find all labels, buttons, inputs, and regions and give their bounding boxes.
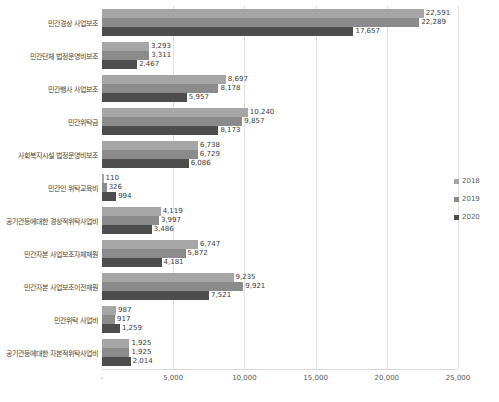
bar-value-label: 326 <box>109 183 122 192</box>
x-tick-label: 25,000 <box>446 374 471 382</box>
gridline <box>387 6 388 369</box>
category-axis: 민간경상 사업보조민간단체 법정운영비보조민간행사 사업보조민간위탁금사회복지시… <box>0 6 98 369</box>
legend-label-2020: 2020 <box>462 213 480 221</box>
legend-label-2018: 2018 <box>462 177 480 185</box>
legend-swatch-2018-icon <box>454 179 459 184</box>
plot-area: 22,59122,28917,6573,2933,3112,4678,6978,… <box>102 6 458 370</box>
bar-2019 <box>102 150 198 159</box>
bar-2018 <box>102 240 198 249</box>
bar-2018 <box>102 42 149 51</box>
gridline <box>244 6 245 369</box>
bar-2019 <box>102 282 243 291</box>
bar-2018 <box>102 306 116 315</box>
x-tick-label: 20,000 <box>375 374 400 382</box>
bar-value-label: 9,921 <box>245 282 265 291</box>
bar-value-label: 8,173 <box>220 126 240 135</box>
bar-value-label: 22,289 <box>421 18 446 27</box>
bar-2020 <box>102 93 187 102</box>
bar-value-label: 3,997 <box>161 216 181 225</box>
bar-value-label: 6,086 <box>191 159 211 168</box>
bar-value-label: 1,259 <box>122 324 142 333</box>
bar-2020 <box>102 159 189 168</box>
x-axis: -5,00010,00015,00020,00025,000 <box>102 374 458 386</box>
bar-2018 <box>102 273 234 282</box>
x-tick-label: - <box>101 374 104 382</box>
bar-value-label: 1,925 <box>131 339 151 348</box>
bar-value-label: 9,235 <box>236 273 256 282</box>
bar-2019 <box>102 51 149 60</box>
legend-swatch-2020-icon <box>454 215 459 220</box>
bar-2020 <box>102 192 116 201</box>
bar-2019 <box>102 216 159 225</box>
legend-item-2020: 2020 <box>454 208 480 226</box>
bar-2018 <box>102 207 161 216</box>
bar-2020 <box>102 291 209 300</box>
x-tick-label: 10,000 <box>232 374 257 382</box>
legend-item-2019: 2019 <box>454 190 480 208</box>
bar-value-label: 3,311 <box>151 51 171 60</box>
bar-value-label: 987 <box>118 306 131 315</box>
bar-2020 <box>102 225 152 234</box>
category-label: 민간인 위탁교육비 <box>0 171 98 204</box>
category-label: 민간위탁 사업비 <box>0 303 98 336</box>
bar-value-label: 6,747 <box>200 240 220 249</box>
bar-2020 <box>102 60 137 69</box>
bar-2019 <box>102 249 186 258</box>
bar-value-label: 1,925 <box>131 348 151 357</box>
bar-2019 <box>102 315 115 324</box>
bar-2018 <box>102 174 104 183</box>
bar-2018 <box>102 141 198 150</box>
bar-value-label: 110 <box>106 174 119 183</box>
bar-chart: 민간경상 사업보조민간단체 법정운영비보조민간행사 사업보조민간위탁금사회복지시… <box>0 0 499 402</box>
gridline <box>173 6 174 369</box>
bar-2019 <box>102 117 242 126</box>
bar-value-label: 5,872 <box>188 249 208 258</box>
bar-value-label: 2,014 <box>133 357 153 366</box>
bar-value-label: 9,857 <box>244 117 264 126</box>
bar-value-label: 8,178 <box>220 84 240 93</box>
bar-2020 <box>102 357 131 366</box>
legend-swatch-2019-icon <box>454 197 459 202</box>
legend: 2018 2019 2020 <box>454 172 480 226</box>
bar-value-label: 3,486 <box>154 225 174 234</box>
category-label: 민간경상 사업보조 <box>0 6 98 39</box>
category-label: 민간행사 사업보조 <box>0 72 98 105</box>
bar-value-label: 3,293 <box>151 42 171 51</box>
bar-2018 <box>102 339 129 348</box>
x-tick-label: 5,000 <box>163 374 183 382</box>
bar-value-label: 4,181 <box>164 258 184 267</box>
bar-value-label: 8,697 <box>228 75 248 84</box>
category-label: 민간자본 사업보조이전재원 <box>0 270 98 303</box>
category-label: 공기관등에대한 경상적위탁사업비 <box>0 204 98 237</box>
bar-2020 <box>102 27 353 36</box>
bar-value-label: 22,591 <box>426 9 451 18</box>
bar-value-label: 5,957 <box>189 93 209 102</box>
gridline <box>316 6 317 369</box>
bar-value-label: 6,738 <box>200 141 220 150</box>
bar-2020 <box>102 126 218 135</box>
bar-value-label: 7,521 <box>211 291 231 300</box>
category-label: 공기관등에대한 자본적위탁사업비 <box>0 336 98 369</box>
category-label: 사회복지시설 법정운영비보조 <box>0 138 98 171</box>
legend-label-2019: 2019 <box>462 195 480 203</box>
bar-2019 <box>102 183 107 192</box>
bar-value-label: 10,240 <box>250 108 275 117</box>
bar-value-label: 6,729 <box>200 150 220 159</box>
bar-value-label: 917 <box>117 315 130 324</box>
bar-2019 <box>102 348 129 357</box>
bar-value-label: 17,657 <box>355 27 380 36</box>
bar-value-label: 4,119 <box>163 207 183 216</box>
category-label: 민간자본 사업보조자체재원 <box>0 237 98 270</box>
category-label: 민간단체 법정운영비보조 <box>0 39 98 72</box>
bar-2020 <box>102 258 162 267</box>
bar-2019 <box>102 18 419 27</box>
bar-2018 <box>102 75 226 84</box>
bar-value-label: 994 <box>118 192 131 201</box>
bar-2018 <box>102 9 424 18</box>
bar-2020 <box>102 324 120 333</box>
x-tick-label: 15,000 <box>303 374 328 382</box>
category-label: 민간위탁금 <box>0 105 98 138</box>
bar-2018 <box>102 108 248 117</box>
bar-value-label: 2,467 <box>139 60 159 69</box>
legend-item-2018: 2018 <box>454 172 480 190</box>
